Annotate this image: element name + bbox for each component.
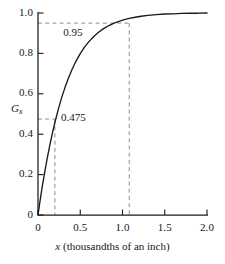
- chart-figure: 00.20.40.60.81.0 00.51.01.52.0 Gx x (tho…: [0, 0, 225, 264]
- y-axis-title-subscript: x: [19, 107, 23, 116]
- x-tick-label: 2.0: [187, 221, 225, 233]
- y-tick-label: 1.0: [19, 6, 33, 18]
- x-tick-label: 0.5: [60, 221, 100, 233]
- y-tick-label: 0.8: [19, 46, 33, 58]
- x-axis-title: x (thousandths of an inch): [0, 240, 225, 252]
- y-tick-label: 0.2: [19, 167, 33, 179]
- y-tick-label: 0.6: [19, 86, 33, 98]
- annotation-label-lower: 0.475: [61, 111, 86, 123]
- x-tick-label: 1.0: [103, 221, 143, 233]
- x-axis-title-text: (thousandths of an inch): [60, 240, 169, 252]
- x-tick-label: 1.5: [145, 221, 185, 233]
- annotation-label-upper: 0.95: [63, 26, 82, 38]
- x-tick-label: 0: [18, 221, 58, 233]
- y-tick-label: 0: [27, 208, 33, 220]
- y-tick-label: 0.4: [19, 127, 33, 139]
- y-axis-title: Gx: [11, 102, 23, 116]
- y-axis-title-symbol: G: [11, 102, 19, 114]
